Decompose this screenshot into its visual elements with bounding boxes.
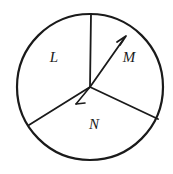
geometry-figure-container: L M N xyxy=(0,0,173,174)
sector-label-m: M xyxy=(122,49,137,65)
sector-label-l: L xyxy=(49,49,58,65)
angle-tick-mark xyxy=(76,103,85,104)
radius-up xyxy=(90,14,91,87)
sector-label-n: N xyxy=(88,116,100,132)
circle-sectors-diagram: L M N xyxy=(0,0,173,174)
figure-background xyxy=(0,0,173,174)
